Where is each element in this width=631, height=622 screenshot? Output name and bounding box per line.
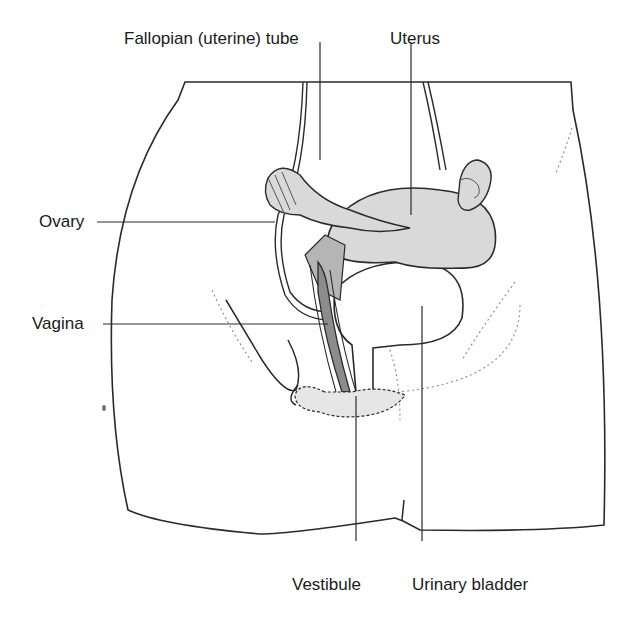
urinary-bladder-shape <box>334 262 463 395</box>
label-urinary-bladder: Urinary bladder <box>412 576 528 593</box>
label-uterus: Uterus <box>390 30 440 47</box>
right-tube <box>458 160 491 210</box>
label-vestibule: Vestibule <box>292 576 361 593</box>
label-fallopian-tube: Fallopian (uterine) tube <box>124 30 299 47</box>
stray-mark <box>102 405 106 411</box>
label-ovary: Ovary <box>39 213 84 230</box>
diagram-artwork <box>0 0 631 622</box>
label-vagina: Vagina <box>32 315 84 332</box>
anatomy-diagram: Fallopian (uterine) tube Uterus Ovary Va… <box>0 0 631 622</box>
